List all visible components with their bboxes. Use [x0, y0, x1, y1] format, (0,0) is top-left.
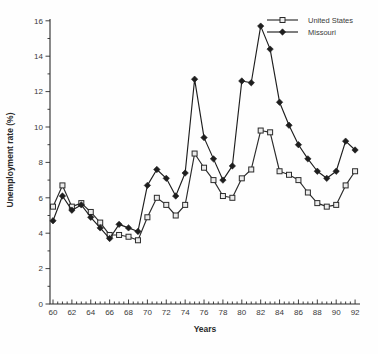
diamond-marker — [248, 80, 254, 86]
legend-item: Missouri — [267, 28, 336, 37]
square-marker — [211, 178, 216, 183]
y-tick-label: 4 — [39, 229, 44, 238]
diamond-marker — [279, 29, 285, 35]
y-tick-label: 2 — [39, 264, 44, 273]
x-tick-label: 90 — [332, 308, 341, 317]
square-marker — [145, 215, 150, 220]
square-marker — [117, 232, 122, 237]
series-missouri — [50, 23, 358, 242]
square-marker — [51, 204, 56, 209]
x-tick-label: 60 — [49, 308, 58, 317]
square-marker — [324, 204, 329, 209]
square-marker — [173, 213, 178, 218]
y-tick-label: 8 — [39, 158, 44, 167]
diamond-marker — [182, 170, 188, 176]
y-tick-label: 12 — [34, 87, 43, 96]
y-tick-label: 6 — [39, 194, 44, 203]
diamond-marker — [295, 142, 301, 148]
diamond-marker — [201, 134, 207, 140]
diamond-marker — [239, 78, 245, 84]
x-tick-label: 72 — [162, 308, 171, 317]
axis-frame — [50, 19, 360, 304]
square-marker — [202, 165, 207, 170]
diamond-marker — [267, 46, 273, 52]
axes: 0246810121416606264666870727476788082848… — [34, 17, 360, 317]
x-tick-label: 62 — [67, 308, 76, 317]
legend-label: Missouri — [308, 28, 336, 37]
x-tick-label: 92 — [351, 308, 360, 317]
square-marker — [220, 194, 225, 199]
x-tick-label: 82 — [256, 308, 265, 317]
diamond-marker — [210, 156, 216, 162]
square-marker — [334, 202, 339, 207]
square-marker — [154, 195, 159, 200]
legend-item: United States — [267, 16, 353, 25]
square-marker — [60, 183, 65, 188]
legend-label: United States — [308, 16, 353, 25]
y-tick-label: 10 — [34, 123, 43, 132]
data-series — [50, 23, 358, 243]
diamond-marker — [59, 193, 65, 199]
square-marker — [239, 176, 244, 181]
square-marker — [135, 238, 140, 243]
diamond-marker — [276, 99, 282, 105]
square-marker — [126, 234, 131, 239]
y-tick-label: 0 — [39, 300, 44, 309]
y-tick-label: 16 — [34, 17, 43, 26]
y-axis-title: Unemployment rate (%) — [5, 112, 15, 207]
square-marker — [287, 172, 292, 177]
square-marker — [277, 169, 282, 174]
diamond-marker — [220, 177, 226, 183]
square-marker — [280, 18, 285, 23]
x-tick-label: 76 — [200, 308, 209, 317]
diamond-marker — [173, 193, 179, 199]
x-tick-label: 86 — [294, 308, 303, 317]
square-marker — [305, 190, 310, 195]
diamond-marker — [116, 221, 122, 227]
x-tick-label: 70 — [143, 308, 152, 317]
square-marker — [192, 151, 197, 156]
square-marker — [353, 169, 358, 174]
diamond-marker — [125, 225, 131, 231]
x-tick-label: 88 — [313, 308, 322, 317]
x-tick-label: 78 — [218, 308, 227, 317]
diamond-marker — [144, 182, 150, 188]
square-marker — [296, 178, 301, 183]
square-marker — [343, 183, 348, 188]
square-marker — [230, 195, 235, 200]
legend: United StatesMissouri — [267, 16, 353, 37]
series-united-states — [51, 128, 358, 243]
x-tick-label: 84 — [275, 308, 284, 317]
x-axis-title: Years — [194, 324, 217, 334]
square-marker — [164, 202, 169, 207]
series-line — [53, 26, 355, 238]
chart-canvas: 0246810121416606264666870727476788082848… — [0, 0, 378, 354]
diamond-marker — [257, 23, 263, 29]
x-tick-label: 68 — [124, 308, 133, 317]
unemployment-rate-chart: 0246810121416606264666870727476788082848… — [0, 0, 378, 354]
x-tick-label: 74 — [181, 308, 190, 317]
x-tick-label: 80 — [237, 308, 246, 317]
y-tick-label: 14 — [34, 52, 43, 61]
square-marker — [183, 202, 188, 207]
square-marker — [315, 201, 320, 206]
x-tick-label: 66 — [105, 308, 114, 317]
diamond-marker — [229, 163, 235, 169]
square-marker — [268, 130, 273, 135]
square-marker — [258, 128, 263, 133]
diamond-marker — [286, 122, 292, 128]
x-tick-label: 64 — [86, 308, 95, 317]
diamond-marker — [191, 76, 197, 82]
diamond-marker — [50, 218, 56, 224]
square-marker — [249, 167, 254, 172]
